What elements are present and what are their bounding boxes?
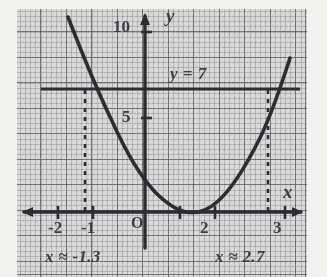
- y-tick-label-5: 5: [122, 108, 131, 125]
- x-axis-arrow-right: [292, 207, 303, 217]
- origin-label: O: [131, 215, 143, 231]
- line-equation-label: y = 7: [170, 65, 207, 82]
- right-solution-label: x ≈ 2.7: [215, 248, 265, 265]
- parabola-curve: [68, 17, 290, 213]
- y-axis-label: y: [166, 6, 174, 25]
- x-tick-label-2: 2: [200, 219, 209, 236]
- left-solution-label: x ≈ -1.3: [45, 248, 101, 265]
- graph-figure: y x y = 7 O x ≈ -1.3 x ≈ 2.7 10 5 -2 -1 …: [0, 0, 327, 277]
- x-axis-arrow-left: [22, 207, 33, 217]
- x-tick-label-minus2: -2: [48, 219, 62, 236]
- axes: [24, 16, 301, 248]
- y-axis-arrow-up: [140, 13, 150, 25]
- tick-marks: [58, 32, 285, 219]
- x-tick-label-3: 3: [273, 219, 282, 236]
- y-tick-label-10: 10: [113, 18, 130, 35]
- x-tick-label-minus1: -1: [81, 219, 95, 236]
- x-axis-label: x: [283, 182, 293, 201]
